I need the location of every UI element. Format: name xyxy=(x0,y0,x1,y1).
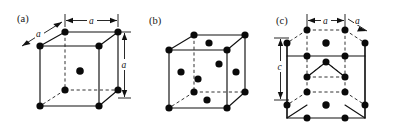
atom-top-hex-center xyxy=(322,39,329,46)
atom-corner-back-top-left xyxy=(61,28,68,35)
atom-top-hex-vertex-3 xyxy=(362,40,369,47)
atom-face-center-back xyxy=(215,60,222,67)
atom-top-hex-vertex-6 xyxy=(284,40,291,47)
atom-corner-front-bottom-right xyxy=(223,104,230,111)
atom-top-hex-vertex-1 xyxy=(304,27,311,34)
atom-bottom-hex-center xyxy=(322,101,329,108)
atom-bottom-hex-vertex-4 xyxy=(342,115,349,122)
panel-a-dimension-top-a: a xyxy=(65,14,118,27)
atom-corner-back-top-left xyxy=(190,31,197,38)
atom-corner-front-bottom-left xyxy=(36,102,43,109)
panel-a-dim-top-label: a xyxy=(89,16,94,26)
atom-mid-plane-2 xyxy=(304,74,311,81)
atom-face-center-front xyxy=(194,75,201,82)
panel-c-label: (c) xyxy=(276,15,288,27)
atom-face-center-top xyxy=(205,39,212,46)
atom-bottom-hex-vertex-6 xyxy=(284,102,291,109)
atom-mid-plane-3 xyxy=(342,74,349,81)
atom-corner-front-top-left xyxy=(165,46,172,53)
atom-corner-front-top-right xyxy=(95,42,102,49)
panel-c-dimension-edge-a: a xyxy=(348,15,367,31)
panel-a-bcc: (a) a a a xyxy=(0,0,131,126)
panel-a-dimension-depth-a: a xyxy=(22,22,62,46)
atom-corner-front-bottom-left xyxy=(165,104,172,111)
atom-bottom-hex-vertex-2 xyxy=(342,89,349,96)
atom-top-hex-vertex-5 xyxy=(304,53,311,60)
atom-corner-front-bottom-right xyxy=(95,102,102,109)
atom-bottom-hex-vertex-3 xyxy=(362,102,369,109)
atom-top-hex-vertex-2 xyxy=(342,27,349,34)
panel-a-dim-depth-label: a xyxy=(36,29,41,39)
panel-b-fcc: (b) xyxy=(131,0,262,126)
atom-bottom-hex-vertex-5 xyxy=(304,115,311,122)
panel-c-dim-top-label: a xyxy=(323,16,328,26)
panel-b-label: (b) xyxy=(149,15,162,27)
atom-mid-plane-1 xyxy=(323,59,330,66)
atom-corner-back-top-right xyxy=(241,31,248,38)
atom-corner-back-bottom-right xyxy=(241,88,248,95)
atom-corner-back-top-right xyxy=(114,28,121,35)
atom-face-center-left xyxy=(177,68,184,75)
atom-corner-front-top-right xyxy=(223,46,230,53)
panel-c-dimension-top-a: a xyxy=(307,14,345,28)
crystal-structures-figure: (a) a a a xyxy=(0,0,393,126)
atom-body-center xyxy=(76,67,84,75)
panel-a-dim-right-label: a xyxy=(122,60,127,70)
atom-bottom-hex-vertex-1 xyxy=(304,89,311,96)
atom-corner-back-bottom-right xyxy=(114,86,121,93)
atom-corner-front-top-left xyxy=(36,42,43,49)
atom-face-center-bottom xyxy=(203,96,210,103)
atom-corner-back-bottom-left xyxy=(190,88,197,95)
panel-a-label: (a) xyxy=(17,13,29,25)
panel-c-atoms xyxy=(284,27,369,122)
panel-c-hcp: (c) a a c xyxy=(262,0,393,126)
atom-corner-back-bottom-left xyxy=(61,86,68,93)
atom-face-center-right xyxy=(232,68,239,75)
panel-c-dim-edge-label: a xyxy=(355,16,360,26)
atom-top-hex-vertex-4 xyxy=(342,53,349,60)
